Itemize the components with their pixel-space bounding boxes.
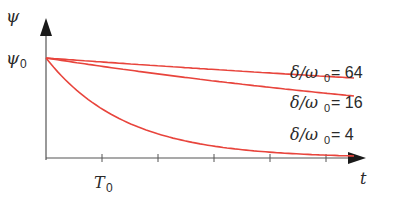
y-axis-arrow-icon: [40, 18, 52, 36]
svg-text:= 16: = 16: [331, 94, 363, 111]
svg-text:0: 0: [324, 134, 330, 146]
svg-text:= 4: = 4: [331, 126, 354, 143]
svg-text:0: 0: [20, 57, 27, 71]
svg-text:ψ: ψ: [6, 48, 20, 68]
svg-text:0: 0: [324, 102, 330, 114]
y-tick-label: ψ 0: [6, 48, 27, 71]
svg-text:T: T: [94, 173, 106, 192]
svg-text:= 64: = 64: [331, 64, 363, 81]
svg-text:0: 0: [324, 72, 330, 84]
svg-text:0: 0: [106, 181, 113, 195]
series-label: δ/ω: [290, 125, 318, 144]
x-tick-label: T 0: [94, 173, 113, 195]
x-axis-label: t: [360, 169, 367, 188]
chart: ψ ψ 0 T 0 t δ/ω0 = 64δ/ω0 = 16δ/ω0 = 4: [0, 0, 398, 203]
series-labels: δ/ω0 = 64δ/ω0 = 16δ/ω0 = 4: [290, 63, 363, 146]
x-axis-arrow-icon: [348, 152, 366, 164]
y-axis-label: ψ: [6, 6, 20, 26]
series-label: δ/ω: [290, 63, 318, 82]
series-label: δ/ω: [290, 93, 318, 112]
